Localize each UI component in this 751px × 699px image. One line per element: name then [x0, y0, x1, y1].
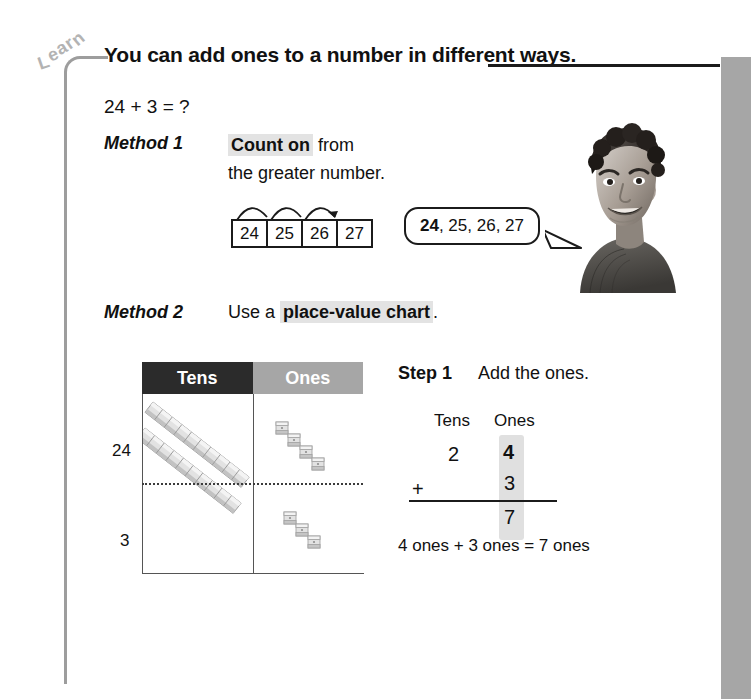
addend2-ones: 3: [504, 472, 515, 495]
addition-operator: +: [412, 478, 424, 501]
method-2-text-after: .: [433, 302, 438, 322]
track-cell: 26: [303, 221, 338, 246]
pv-body: [142, 394, 363, 574]
method-1-text-rest: from: [313, 135, 354, 155]
learn-bracket: [64, 56, 108, 684]
speech-bubble-rest: , 25, 26, 27: [439, 216, 524, 235]
pv-row-label: 3: [120, 531, 129, 551]
smiling-boy-photo: [566, 118, 686, 293]
worksheet-page: Learn You can add ones to a number in di…: [0, 0, 751, 699]
step-1-text: Add the ones.: [478, 363, 589, 384]
pv-header-row: Tens Ones: [142, 362, 363, 394]
method-2-text-before: Use a: [228, 302, 280, 322]
page-margin-bar: [721, 57, 751, 699]
track-cell: 24: [233, 221, 268, 246]
pv-row-label: 24: [112, 441, 131, 461]
pv-header-tens: Tens: [142, 362, 253, 394]
sum-column-header-tens: Tens: [434, 411, 470, 431]
title-rule: [488, 64, 720, 67]
place-value-chart: Tens Ones: [142, 362, 363, 574]
sum-column-header-ones: Ones: [494, 411, 535, 431]
method-1-instruction: Count on from the greater number.: [228, 132, 385, 187]
addend1-tens: 2: [448, 443, 459, 466]
problem-equation: 24 + 3 = ?: [104, 96, 190, 118]
addend1-ones: 4: [503, 441, 514, 464]
step-1-label: Step 1: [398, 363, 452, 384]
track-cell: 25: [268, 221, 303, 246]
track-cell: 27: [338, 221, 371, 246]
sum-ones: 7: [504, 506, 515, 529]
speech-bubble-bold: 24: [420, 216, 439, 235]
speech-bubble: 24, 25, 26, 27: [404, 207, 540, 245]
method-2-label: Method 2: [104, 302, 183, 323]
count-on-highlight: Count on: [228, 134, 313, 156]
place-value-chart-highlight: place-value chart: [280, 301, 433, 323]
step-1-conclusion: 4 ones + 3 ones = 7 ones: [398, 536, 590, 556]
method-1-text-line2: the greater number.: [228, 160, 385, 187]
pv-row-divider: [142, 483, 363, 485]
method-1-label: Method 1: [104, 133, 183, 154]
pv-header-ones: Ones: [253, 362, 364, 394]
sum-rule: [409, 500, 557, 502]
method-2-instruction: Use a place-value chart.: [228, 302, 438, 323]
number-track: 24 25 26 27: [231, 219, 373, 248]
